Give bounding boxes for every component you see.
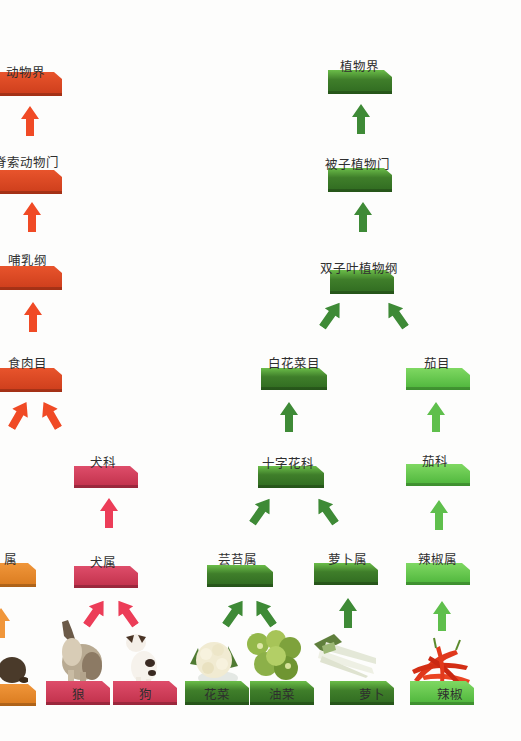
order-plant-2-box — [406, 368, 470, 390]
class-animal-label: 哺乳纲 — [8, 254, 47, 268]
kingdom-animal-label: 动物界 — [6, 66, 45, 80]
class-plant-label: 双子叶植物纲 — [320, 262, 398, 276]
phylum-plant-label: 被子植物门 — [325, 158, 390, 172]
order-plant-2-label: 茄目 — [424, 357, 450, 371]
phylum-animal-box — [0, 170, 62, 194]
arrow-diag-up-left-icon — [381, 298, 413, 333]
class-animal-box — [0, 266, 62, 290]
arrow-up-icon — [430, 500, 448, 530]
kingdom-plant-label: 植物界 — [340, 60, 379, 74]
species-pepper-label: 辣椒 — [418, 686, 482, 704]
chili-peppers-image — [410, 636, 472, 686]
order-animal-label: 食肉目 — [8, 357, 47, 371]
arrow-up-icon — [427, 402, 445, 432]
genus-plant-1-label: 芸苔属 — [218, 553, 257, 567]
genus-plant-1-box — [207, 565, 273, 587]
species-rape-label: 油菜 — [250, 686, 314, 704]
arrow-up-icon — [23, 202, 41, 232]
arrow-up-icon — [24, 302, 42, 332]
order-animal-box — [0, 368, 62, 392]
species-cauliflower-label: 花菜 — [185, 686, 249, 704]
species-radish-label: 萝卜 — [340, 686, 404, 704]
radish-image — [312, 628, 378, 678]
order-plant-1-box — [261, 368, 327, 390]
phylum-animal-label: 脊索动物门 — [0, 156, 59, 170]
arrow-up-icon — [100, 498, 118, 528]
genus-animal-partial-label: 属 — [4, 553, 17, 567]
arrow-up-icon — [354, 202, 372, 232]
arrow-up-icon — [339, 598, 357, 628]
wolf-image — [54, 620, 104, 688]
arrow-partial-icon — [0, 608, 10, 638]
arrow-diag-up-right-icon — [218, 596, 250, 631]
species-dog-label: 狗 — [113, 686, 177, 704]
genus-plant-2-label: 萝卜属 — [328, 553, 367, 567]
arrow-diag-up-left-icon — [311, 494, 343, 529]
arrow-up-icon — [352, 104, 370, 134]
arrow-up-icon — [21, 106, 39, 136]
genus-animal-label: 犬属 — [90, 556, 116, 570]
arrow-diag-up-right-icon — [245, 494, 277, 529]
rape-greens-image — [246, 630, 306, 686]
cauliflower-image — [188, 636, 240, 686]
species-partial-box — [0, 684, 36, 706]
family-plant-2-label: 茄科 — [422, 455, 448, 469]
arrow-up-icon — [433, 601, 451, 631]
arrow-diag-up-left-icon — [111, 596, 143, 631]
family-animal-label: 犬科 — [90, 456, 116, 470]
partial-animal-image — [0, 650, 28, 684]
genus-plant-3-label: 辣椒属 — [418, 553, 457, 567]
order-plant-1-label: 白花菜目 — [268, 357, 320, 371]
arrow-up-icon — [280, 402, 298, 432]
family-plant-1-label: 十字花科 — [262, 457, 314, 471]
arrow-diag-up-right-icon — [315, 298, 347, 333]
dog-image — [124, 633, 168, 689]
arrow-diag-up-right-icon — [4, 398, 35, 433]
arrow-diag-up-left-icon — [249, 596, 281, 631]
species-wolf-label: 狼 — [46, 686, 110, 704]
arrow-diag-up-left-icon — [36, 398, 67, 433]
